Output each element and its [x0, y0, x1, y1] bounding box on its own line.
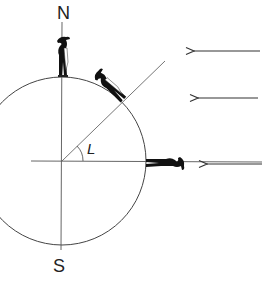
latitude-angle-label: L [87, 140, 95, 157]
angle-arc [77, 146, 83, 161]
observer-north-pole-icon [57, 37, 70, 77]
observer-mid-latitude-icon [92, 68, 128, 104]
latitude-diagram [0, 0, 273, 286]
north-label: N [57, 3, 70, 24]
observer-equator-icon [146, 157, 184, 170]
south-label: S [53, 256, 65, 277]
sun-rays [194, 51, 262, 164]
